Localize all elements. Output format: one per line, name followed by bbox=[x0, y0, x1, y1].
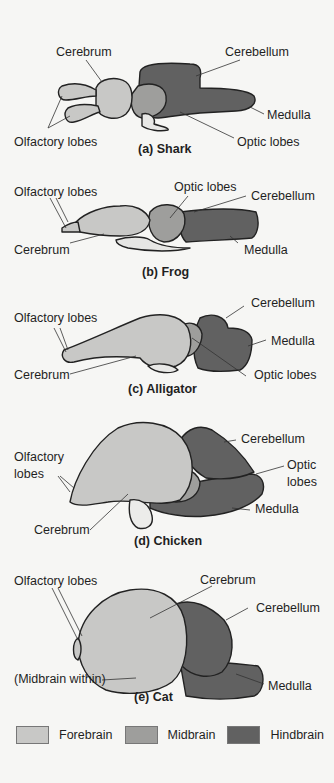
legend-item-hindbrain: Hindbrain bbox=[227, 726, 324, 744]
alligator-label-cerebellum: Cerebellum bbox=[251, 296, 315, 310]
chicken-label-optic-line2: lobes bbox=[287, 475, 317, 489]
shark-cerebrum bbox=[96, 79, 132, 119]
legend-item-forebrain: Forebrain bbox=[16, 726, 113, 744]
shark-brain bbox=[59, 63, 256, 131]
cat-label-midbrain-within: (Midbrain within) bbox=[14, 672, 106, 686]
frog-optic-lobe bbox=[149, 205, 185, 242]
cat-label-cerebellum: Cerebellum bbox=[256, 601, 320, 615]
chicken-caption: (d) Chicken bbox=[134, 534, 202, 548]
midbrain-swatch bbox=[125, 726, 158, 744]
shark-label-olfactory: Olfactory lobes bbox=[14, 135, 97, 149]
frog-label-cerebellum: Cerebellum bbox=[251, 189, 315, 203]
cat-label-cerebrum: Cerebrum bbox=[200, 573, 256, 587]
hindbrain-swatch bbox=[227, 726, 260, 744]
chicken-brain bbox=[70, 423, 264, 529]
legend-label-midbrain: Midbrain bbox=[168, 728, 216, 742]
shark-olfactory-upper bbox=[59, 84, 96, 100]
chicken-label-olfactory-line1: Olfactory bbox=[14, 450, 64, 464]
forebrain-swatch bbox=[16, 726, 49, 744]
shark-olfactory-lower bbox=[65, 105, 100, 123]
shark-label-cerebrum: Cerebrum bbox=[56, 45, 112, 59]
chicken-label-optic-line1: Optic bbox=[287, 458, 316, 472]
chicken-ventral bbox=[129, 500, 152, 529]
chicken-label-olfactory-line2: lobes bbox=[14, 467, 44, 481]
chicken-label-cerebrum: Cerebrum bbox=[34, 523, 90, 537]
shark-caption: (a) Shark bbox=[138, 142, 192, 156]
shark-label-medulla: Medulla bbox=[267, 108, 311, 122]
legend-label-forebrain: Forebrain bbox=[59, 728, 113, 742]
frog-caption: (b) Frog bbox=[142, 265, 189, 279]
cat-olfactory bbox=[74, 638, 82, 660]
frog-label-cerebrum: Cerebrum bbox=[14, 243, 70, 257]
brain-comparison-diagram: Cerebrum Cerebellum Medulla Olfactory lo… bbox=[0, 0, 334, 783]
frog-label-medulla: Medulla bbox=[244, 243, 288, 257]
cat-caption: (e) Cat bbox=[134, 690, 173, 704]
alligator-hindbrain bbox=[194, 315, 252, 371]
frog-cerebrum bbox=[76, 206, 150, 236]
cat-label-medulla: Medulla bbox=[268, 679, 312, 693]
legend: Forebrain Midbrain Hindbrain bbox=[16, 726, 334, 744]
frog-brain bbox=[62, 205, 258, 251]
cat-label-olfactory: Olfactory lobes bbox=[14, 574, 97, 588]
alligator-label-cerebrum: Cerebrum bbox=[14, 368, 70, 382]
legend-label-hindbrain: Hindbrain bbox=[270, 728, 324, 742]
frog-label-optic: Optic lobes bbox=[174, 180, 237, 194]
frog-label-olfactory: Olfactory lobes bbox=[14, 185, 97, 199]
frog-olfactory bbox=[62, 222, 80, 232]
alligator-label-optic: Optic lobes bbox=[254, 368, 317, 382]
shark-label-cerebellum: Cerebellum bbox=[225, 45, 289, 59]
frog-ventral bbox=[116, 237, 190, 251]
chicken-cerebrum bbox=[70, 423, 192, 506]
frog-hindbrain bbox=[179, 209, 258, 242]
alligator-label-olfactory: Olfactory lobes bbox=[14, 311, 97, 325]
legend-item-midbrain: Midbrain bbox=[125, 726, 216, 744]
chicken-label-cerebellum: Cerebellum bbox=[241, 432, 305, 446]
shark-label-optic: Optic lobes bbox=[237, 135, 300, 149]
alligator-caption: (c) Alligator bbox=[128, 382, 197, 396]
alligator-label-medulla: Medulla bbox=[271, 334, 315, 348]
chicken-label-medulla: Medulla bbox=[255, 502, 299, 516]
